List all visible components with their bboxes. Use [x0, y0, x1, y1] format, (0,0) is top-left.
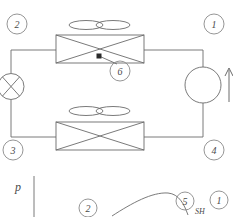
expansion-valve: [0, 74, 24, 100]
compressor-body: [185, 67, 221, 103]
state-point-2-label: 2: [15, 19, 20, 30]
state-point-4-label: 4: [212, 145, 217, 156]
state-point-6-label: 6: [118, 66, 123, 77]
chart-point-5-label: 5: [183, 196, 188, 207]
figure-root: 2 1 3 4 6 p 2 5 1 SH: [0, 0, 233, 217]
evaporator-fan-blade-right: [96, 107, 130, 116]
pressure-axis-label: p: [14, 180, 21, 194]
evaporator-fan-blade-left: [69, 107, 103, 116]
state-point-group: [3, 14, 224, 160]
evaporator-heat-exchanger: [56, 122, 144, 150]
chart-point-1-label: 1: [217, 195, 222, 206]
expansion-valve-circle: [0, 74, 24, 100]
state-point-3-label: 3: [10, 145, 16, 156]
evaporator-fan: [69, 107, 130, 116]
condenser-fan-blade-right: [96, 21, 130, 30]
chart-point-2-label: 2: [86, 203, 91, 214]
condenser-fan-blade-left: [69, 21, 103, 30]
condenser-heat-exchanger: [56, 35, 144, 63]
state-point-1-label: 1: [212, 19, 217, 30]
flow-direction-arrow: [225, 68, 233, 102]
condenser-fan: [69, 21, 130, 30]
refrigeration-cycle-figure: 2 1 3 4 6 p 2 5 1 SH: [0, 0, 233, 217]
superheat-label: SH: [195, 207, 206, 216]
sensor-point-marker: [97, 54, 102, 59]
